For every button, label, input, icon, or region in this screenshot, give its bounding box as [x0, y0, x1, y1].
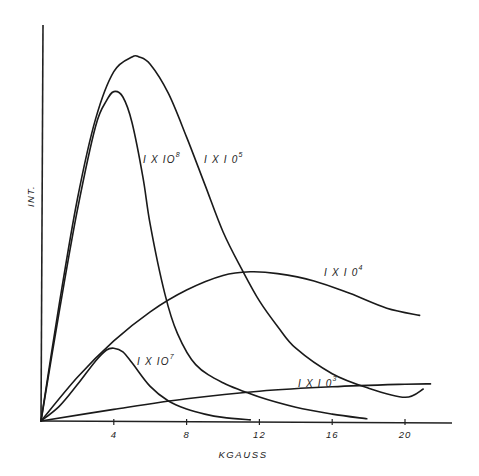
series-label-1e8: I X IO8 [143, 151, 181, 165]
x-axis-tick-labels: 48121620 [111, 429, 412, 440]
x-tick-label: 8 [183, 429, 189, 440]
y-axis-label: INT. [25, 185, 36, 207]
series-label-1e7: I X IO7 [137, 353, 175, 367]
data-series-group [41, 56, 431, 421]
series-label-1e5: I X I 05 [204, 151, 244, 165]
chart-plot-area: 48121620 KGAUSS INT. I X IO8 I X I 05 I … [0, 0, 479, 476]
series-curve-4 [41, 272, 420, 421]
y-axis [41, 25, 43, 421]
x-axis-label: KGAUSS [218, 449, 267, 460]
series-label-1e4: I X I 04 [324, 264, 364, 278]
series-label-1e3: I X I 03 [298, 375, 338, 389]
series-curve-5 [41, 56, 423, 421]
x-tick-label: 12 [253, 429, 266, 440]
x-tick-label: 20 [398, 429, 412, 440]
x-tick-label: 16 [326, 429, 339, 440]
x-tick-label: 4 [111, 429, 117, 440]
x-axis [41, 421, 452, 423]
